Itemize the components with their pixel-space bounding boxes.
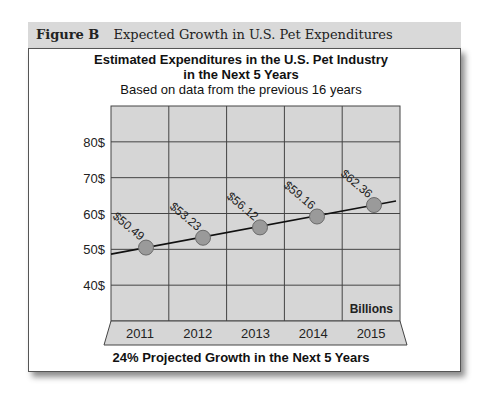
data-point-marker — [367, 198, 382, 213]
x-tick-label: 2012 — [183, 326, 212, 341]
x-tick-label: 2014 — [299, 326, 328, 341]
data-point-marker — [196, 230, 211, 245]
x-tick-label: 2013 — [241, 326, 270, 341]
y-tick-label: 50$ — [83, 242, 105, 257]
x-tick-label: 2011 — [126, 326, 154, 341]
x-tick-label: 2015 — [357, 326, 386, 341]
data-point-marker — [139, 240, 154, 255]
line-chart: 40$50$60$70$80$Billions20112012201320142… — [0, 0, 482, 397]
data-point-marker — [310, 209, 325, 224]
y-tick-label: 60$ — [83, 207, 105, 222]
data-point-marker — [253, 220, 268, 235]
y-tick-label: 70$ — [83, 171, 105, 186]
unit-label: Billions — [350, 302, 394, 316]
plot-area: 40$50$60$70$80$Billions20112012201320142… — [83, 106, 407, 345]
x-axis-label: 24% Projected Growth in the Next 5 Years — [0, 350, 482, 365]
y-tick-label: 80$ — [83, 135, 105, 150]
y-tick-label: 40$ — [83, 278, 105, 293]
